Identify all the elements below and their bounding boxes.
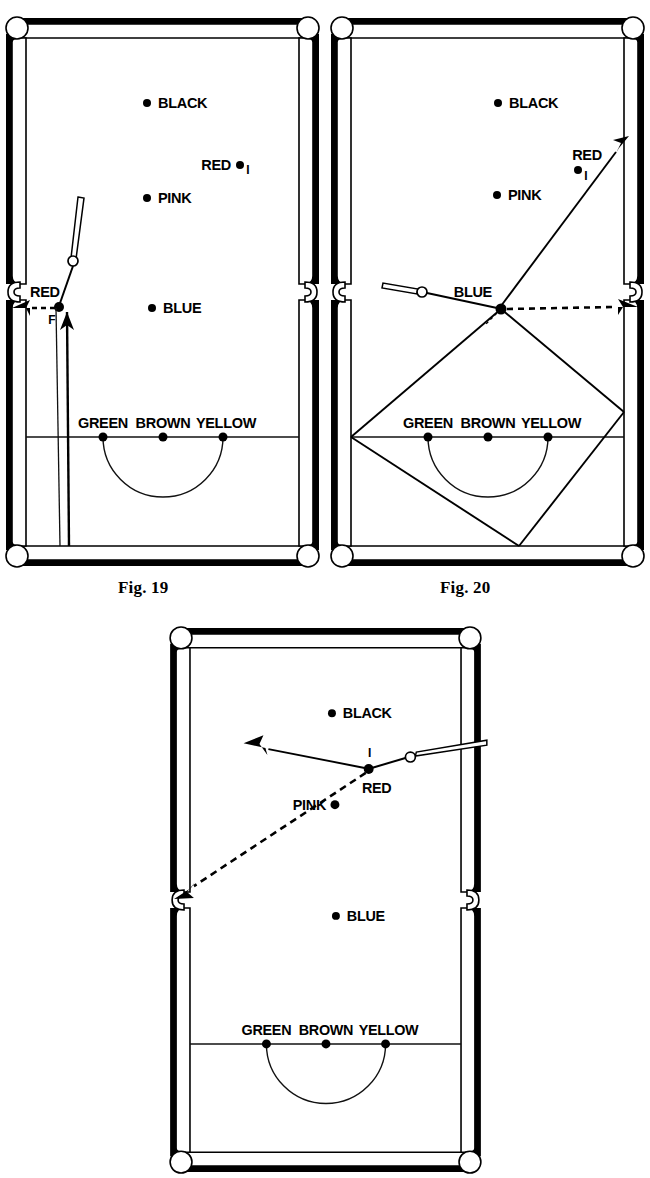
spot-green	[424, 433, 433, 442]
pocket-top-right	[622, 17, 644, 39]
figure-fig20: BLACK RED I PINK BLUE GREEN BROWN YELLOW	[325, 12, 650, 572]
spot-brown	[484, 433, 493, 442]
the-d	[266, 1044, 385, 1104]
spot-yellow	[219, 433, 228, 442]
label-blue: BLUE	[454, 284, 493, 300]
label-green: GREEN	[242, 1022, 292, 1038]
potting-line-top-right	[501, 136, 629, 306]
pocket-top-right	[459, 627, 481, 649]
cushion-rails	[170, 628, 481, 1172]
cue-ball-travel-path	[244, 735, 365, 768]
object-ball-path	[507, 299, 638, 315]
label-pink: PINK	[293, 797, 327, 813]
spot-blue	[332, 912, 340, 920]
snooker-table-fig20: BLACK RED I PINK BLUE GREEN BROWN YELLOW	[325, 12, 650, 572]
snooker-table-fig19: BLACK RED I PINK BLUE RED F GREEN BROWN …	[0, 12, 325, 572]
label-yellow: YELLOW	[521, 415, 582, 431]
label-blue: BLUE	[347, 908, 386, 924]
diamond-seg-2	[351, 437, 519, 546]
label-pink: PINK	[158, 190, 192, 206]
label-brown: BROWN	[461, 415, 516, 431]
label-pink: PINK	[508, 187, 542, 203]
cue-ball	[417, 287, 427, 297]
pocket-middle-left	[333, 282, 345, 302]
red-tick-mark: I	[368, 746, 371, 760]
figure-caption-fig20: Fig. 20	[440, 578, 491, 598]
spot-pink	[143, 194, 151, 202]
pocket-bottom-left	[331, 545, 353, 567]
cue-contact-line	[59, 266, 73, 306]
cue-ball	[405, 752, 415, 762]
label-point-f: F	[48, 313, 55, 327]
label-blue: BLUE	[163, 300, 202, 316]
diamond-seg-3	[519, 412, 624, 546]
spot-brown	[322, 1039, 331, 1048]
figure-fig21: BLACK RED I PINK BLUE GREEN BROWN YELLOW	[163, 622, 488, 1178]
pocket-bottom-left	[6, 545, 28, 567]
cue-stick	[382, 283, 418, 294]
figure-fig19: BLACK RED I PINK BLUE RED F GREEN BROWN …	[0, 12, 325, 572]
pockets	[170, 627, 481, 1173]
ball-spots	[424, 99, 583, 442]
spot-black	[494, 99, 502, 107]
pocket-top-left	[6, 17, 28, 39]
spot-pink	[330, 800, 339, 809]
spot-black	[143, 99, 151, 107]
label-red: RED	[572, 147, 602, 163]
label-red: RED	[362, 780, 391, 796]
label-yellow: YELLOW	[196, 415, 257, 431]
label-yellow: YELLOW	[359, 1022, 419, 1038]
pocket-bottom-left	[170, 1151, 192, 1173]
pocket-top-left	[170, 627, 192, 649]
spot-yellow	[544, 433, 553, 442]
red-tick-mark: I	[584, 169, 587, 183]
pocket-bottom-right	[459, 1151, 481, 1173]
spot-green	[262, 1039, 271, 1048]
pocket-bottom-right	[622, 545, 644, 567]
pocket-middle-right	[467, 890, 479, 910]
spot-black	[328, 709, 336, 717]
baulk-markings	[190, 1044, 461, 1104]
baulk-markings	[351, 437, 624, 497]
red-tick-mark: I	[246, 163, 249, 177]
snooker-table-fig21: BLACK RED I PINK BLUE GREEN BROWN YELLOW	[163, 622, 488, 1178]
spot-blue	[148, 304, 156, 312]
spot-yellow	[381, 1039, 390, 1048]
object-ball-path	[174, 773, 366, 899]
figure-caption-fig19: Fig. 19	[118, 578, 169, 598]
label-red: RED	[201, 157, 231, 173]
diamond-seg-4	[501, 309, 624, 412]
label-black: BLACK	[509, 95, 559, 111]
label-green: GREEN	[403, 415, 453, 431]
pocket-middle-right	[305, 282, 317, 302]
spot-brown	[159, 433, 168, 442]
spot-red	[236, 161, 244, 169]
label-brown: BROWN	[299, 1022, 353, 1038]
pocket-top-right	[297, 17, 319, 39]
spot-red	[574, 166, 582, 174]
the-d	[428, 437, 548, 497]
label-red-f: RED	[30, 284, 60, 300]
spot-green	[99, 433, 108, 442]
pocket-top-left	[331, 17, 353, 39]
label-black: BLACK	[158, 95, 208, 111]
pocket-middle-right	[630, 282, 642, 302]
pocket-middle-left	[172, 890, 184, 910]
diagram-page: BLACK RED I PINK BLUE RED F GREEN BROWN …	[0, 0, 650, 1178]
label-green: GREEN	[78, 415, 128, 431]
cue-contact-line	[372, 758, 406, 768]
pocket-bottom-right	[297, 545, 319, 567]
label-brown: BROWN	[136, 415, 191, 431]
label-black: BLACK	[343, 705, 393, 721]
ball-spots	[99, 99, 245, 442]
cue-stick	[71, 197, 84, 259]
cue-ball-travel-path	[56, 308, 74, 546]
cue-ball	[68, 256, 78, 266]
pocket-middle-left	[8, 282, 20, 302]
cushion-faces	[176, 634, 475, 1166]
spot-pink	[493, 191, 501, 199]
the-d	[103, 437, 223, 497]
